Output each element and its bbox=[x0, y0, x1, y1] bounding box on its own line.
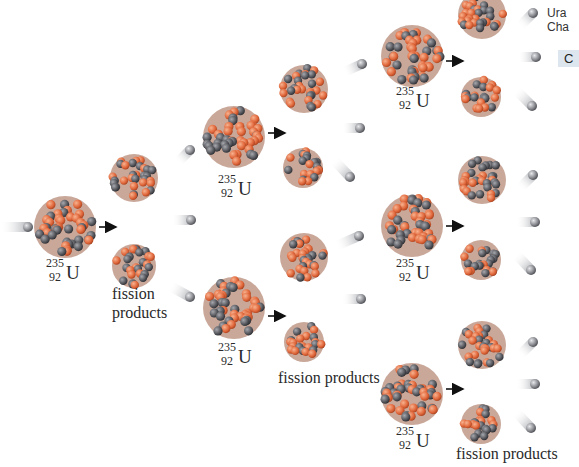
isotope-label-u235: 23592U bbox=[396, 256, 436, 290]
fission-fragment bbox=[112, 244, 156, 289]
uranium-235-nucleus bbox=[381, 363, 444, 425]
neutron bbox=[172, 215, 196, 225]
isotope-label-u235: 23592U bbox=[46, 256, 86, 290]
element-symbol: U bbox=[66, 262, 80, 284]
neutron bbox=[512, 251, 536, 275]
neutron bbox=[342, 123, 365, 133]
mass-number: 235 bbox=[396, 256, 414, 271]
fission-products-label: fission bbox=[112, 284, 155, 303]
neutron bbox=[174, 145, 195, 166]
neutron bbox=[342, 59, 367, 77]
fission-products-label: fission products bbox=[456, 444, 558, 463]
mass-number: 235 bbox=[396, 84, 414, 99]
neutron bbox=[512, 409, 536, 433]
neutron bbox=[516, 337, 538, 359]
neutron bbox=[518, 52, 541, 62]
atomic-number: 92 bbox=[399, 98, 411, 113]
side-panel-button[interactable]: C bbox=[558, 50, 579, 67]
element-symbol: U bbox=[416, 430, 430, 452]
neutron bbox=[516, 217, 540, 227]
isotope-label-u235: 23592U bbox=[396, 424, 436, 458]
uranium-235-nucleus bbox=[381, 194, 443, 257]
atomic-number: 92 bbox=[399, 438, 411, 453]
fission-fragment bbox=[458, 0, 507, 39]
atomic-number: 92 bbox=[49, 270, 61, 285]
fission-fragment bbox=[109, 154, 159, 202]
neutron bbox=[334, 231, 364, 251]
uranium-235-nucleus bbox=[34, 196, 96, 258]
fission-fragment bbox=[460, 240, 501, 280]
fission-products-label: products bbox=[112, 303, 167, 322]
uranium-235-nucleus bbox=[381, 25, 445, 87]
neutron bbox=[342, 294, 366, 304]
neutron bbox=[512, 86, 537, 111]
atomic-number: 92 bbox=[221, 354, 233, 369]
fission-fragment bbox=[460, 404, 501, 444]
element-symbol: U bbox=[416, 262, 430, 284]
isotope-label-u235: 23592U bbox=[218, 340, 258, 374]
fission-products-label: fission products bbox=[278, 368, 380, 387]
isotope-label-u235: 23592U bbox=[218, 172, 258, 206]
fission-fragment bbox=[284, 322, 325, 362]
mass-number: 235 bbox=[46, 256, 64, 271]
mass-number: 235 bbox=[218, 340, 236, 355]
neutron bbox=[330, 157, 355, 182]
uranium-235-nucleus bbox=[203, 106, 266, 168]
mass-number: 235 bbox=[396, 424, 414, 439]
fission-fragment bbox=[458, 321, 506, 369]
neutron bbox=[0, 222, 33, 232]
element-symbol: U bbox=[416, 90, 430, 112]
neutron bbox=[516, 170, 538, 192]
atomic-number: 92 bbox=[221, 186, 233, 201]
atomic-number: 92 bbox=[399, 270, 411, 285]
fission-fragment bbox=[279, 64, 328, 113]
nuclei-layer bbox=[34, 0, 507, 444]
fission-fragment bbox=[458, 156, 506, 204]
side-panel-text-2: Cha bbox=[547, 20, 569, 34]
isotope-label-u235: 23592U bbox=[396, 84, 436, 118]
fission-fragment bbox=[283, 147, 323, 188]
element-symbol: U bbox=[238, 346, 252, 368]
element-symbol: U bbox=[238, 178, 252, 200]
side-panel-text-1: Ura bbox=[547, 6, 566, 20]
fission-fragment bbox=[461, 76, 501, 117]
neutron bbox=[516, 8, 538, 30]
uranium-235-nucleus bbox=[203, 276, 265, 339]
neutron bbox=[516, 379, 540, 389]
fission-fragment bbox=[280, 233, 328, 282]
mass-number: 235 bbox=[218, 172, 236, 187]
neutron bbox=[168, 282, 195, 302]
